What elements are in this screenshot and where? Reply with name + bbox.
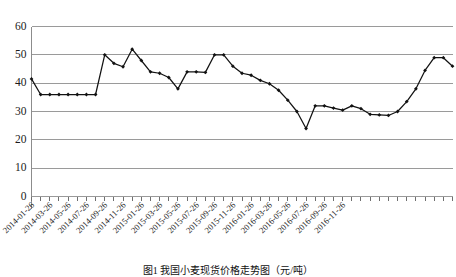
data-point-18 [194,70,198,74]
data-point-2 [48,93,52,97]
series-line-price [32,49,453,128]
y-tick-label-60: 60 [15,20,27,32]
data-point-5 [75,93,79,97]
y-tick-label-20: 20 [15,133,27,145]
y-tick-label-30: 30 [15,105,27,117]
data-point-4 [66,93,70,97]
data-point-38 [377,113,381,117]
data-point-32 [322,104,326,108]
data-point-39 [387,114,391,118]
data-point-33 [332,106,336,110]
data-point-14 [158,71,162,75]
y-tick-label-0: 0 [21,190,27,202]
y-tick-label-40: 40 [15,76,27,88]
y-tick-label-10: 10 [15,161,27,173]
data-point-3 [57,93,61,97]
data-point-35 [350,104,354,108]
data-point-31 [313,104,317,108]
y-tick-label-50: 50 [15,48,27,60]
figure-caption: 图1 我国小麦现货价格走势图（元/吨） [0,262,456,277]
data-point-7 [94,93,98,97]
data-point-6 [85,93,89,97]
